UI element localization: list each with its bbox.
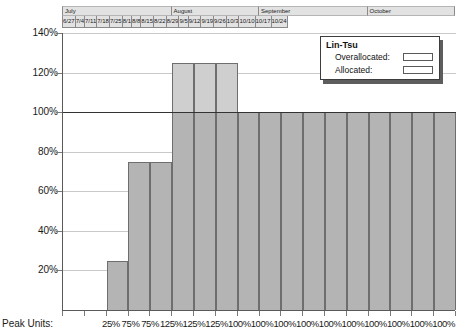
allocated-segment xyxy=(370,112,390,310)
timeline-week-cell: 9/12 xyxy=(188,16,201,28)
bar-column xyxy=(216,33,238,310)
x-axis-tick xyxy=(149,311,150,316)
resource-bar xyxy=(216,63,238,310)
timeline-week-cell: 7/25 xyxy=(109,16,122,28)
allocated-segment xyxy=(391,112,411,310)
peak-unit-value: 100% xyxy=(273,318,296,330)
timeline-week-cell: 10/24 xyxy=(271,16,288,28)
timeline-month-august: August xyxy=(171,6,258,16)
peak-units-row: 25%75%75%125%125%125%100%100%100%100%100… xyxy=(62,318,455,330)
resource-bar xyxy=(369,112,391,310)
peak-unit-value: 100% xyxy=(342,318,365,330)
peak-unit-value: 125% xyxy=(160,318,183,330)
allocated-segment xyxy=(348,112,368,310)
y-axis-label: 100% xyxy=(0,107,58,117)
peak-unit-value: 100% xyxy=(251,318,274,330)
legend-box: Lin-Tsu Overallocated: Allocated: xyxy=(320,36,440,80)
peak-unit-value: 100% xyxy=(319,318,342,330)
legend-overallocated-label: Overallocated: xyxy=(335,52,390,63)
timeline-header: JulyAugustSeptemberOctober 6/277/47/117/… xyxy=(62,6,455,28)
timeline-week-cell: 9/5 xyxy=(178,16,187,28)
peak-unit-value: 75% xyxy=(121,318,141,330)
allocated-segment xyxy=(108,261,128,310)
allocated-segment xyxy=(326,112,346,310)
peak-unit-value: 100% xyxy=(364,318,387,330)
peak-unit-value: 75% xyxy=(140,318,160,330)
resource-bar xyxy=(107,261,129,310)
peak-unit-value: 100% xyxy=(296,318,319,330)
timeline-week-cell: 9/26 xyxy=(213,16,226,28)
timeline-week-cell: 8/29 xyxy=(166,16,179,28)
allocated-segment xyxy=(195,112,215,310)
x-axis-tick xyxy=(128,311,129,316)
bar-column xyxy=(85,33,107,310)
peak-unit-value: 100% xyxy=(228,318,251,330)
allocated-segment xyxy=(304,112,324,310)
x-axis-tick xyxy=(237,311,238,316)
gridline-100 xyxy=(63,112,456,113)
x-axis-ticks xyxy=(62,311,455,316)
peak-unit-value xyxy=(82,318,102,330)
timeline-week-cell: 8/22 xyxy=(153,16,166,28)
y-axis-label: 20% xyxy=(0,265,58,275)
allocated-segment xyxy=(173,112,193,310)
allocated-segment xyxy=(260,112,280,310)
bar-column xyxy=(150,33,172,310)
timeline-month-september: September xyxy=(258,6,367,16)
x-axis-tick xyxy=(433,311,434,316)
bar-column xyxy=(281,33,303,310)
legend-title: Lin-Tsu xyxy=(326,40,358,50)
allocated-segment xyxy=(282,112,302,310)
y-axis-label: 140% xyxy=(0,28,58,38)
allocated-segment xyxy=(129,162,149,310)
timeline-week-cell: 7/11 xyxy=(84,16,96,28)
x-axis-tick xyxy=(302,311,303,316)
x-axis-tick xyxy=(259,311,260,316)
peak-unit-value: 25% xyxy=(101,318,121,330)
bar-column xyxy=(238,33,260,310)
x-axis-tick xyxy=(280,311,281,316)
y-axis-label: 60% xyxy=(0,186,58,196)
resource-bar xyxy=(259,112,281,310)
peak-unit-value: 125% xyxy=(205,318,228,330)
timeline-week-cell: 9/19 xyxy=(200,16,213,28)
x-axis-tick xyxy=(215,311,216,316)
timeline-month-row: JulyAugustSeptemberOctober xyxy=(62,6,455,16)
x-axis-tick xyxy=(455,311,456,316)
resource-bar xyxy=(172,63,194,310)
peak-unit-value: 125% xyxy=(183,318,206,330)
resource-bar xyxy=(128,162,150,310)
x-axis-tick xyxy=(346,311,347,316)
bar-column xyxy=(172,33,194,310)
resource-bar xyxy=(325,112,347,310)
peak-unit-value: 100% xyxy=(432,318,455,330)
peak-unit-value xyxy=(62,318,82,330)
overallocated-segment xyxy=(217,63,237,112)
bar-column xyxy=(63,33,85,310)
x-axis-tick xyxy=(171,311,172,316)
bar-column xyxy=(259,33,281,310)
x-axis-tick xyxy=(411,311,412,316)
allocated-segment xyxy=(151,162,171,310)
resource-bar xyxy=(347,112,369,310)
y-axis-label: 40% xyxy=(0,226,58,236)
x-axis-tick xyxy=(368,311,369,316)
timeline-week-row: 6/277/47/117/187/258/18/88/158/228/299/5… xyxy=(62,16,455,28)
resource-bar xyxy=(434,112,456,310)
peak-unit-value: 100% xyxy=(387,318,410,330)
timeline-week-cell: 8/8 xyxy=(131,16,140,28)
resource-bar xyxy=(150,162,172,310)
timeline-week-cell: 10/3 xyxy=(226,16,239,28)
timeline-week-cell: 8/1 xyxy=(122,16,131,28)
timeline-month-october: October xyxy=(367,6,455,16)
resource-allocation-chart: JulyAugustSeptemberOctober 6/277/47/117/… xyxy=(0,0,469,334)
timeline-week-cell: 7/4 xyxy=(75,16,84,28)
allocated-segment xyxy=(435,112,455,310)
timeline-week-cell: 7/18 xyxy=(96,16,109,28)
bar-column xyxy=(128,33,150,310)
peak-unit-value: 100% xyxy=(410,318,433,330)
x-axis-tick xyxy=(324,311,325,316)
overallocated-segment xyxy=(173,63,193,112)
overallocated-segment xyxy=(195,63,215,112)
timeline-week-cell: 10/10 xyxy=(238,16,254,28)
